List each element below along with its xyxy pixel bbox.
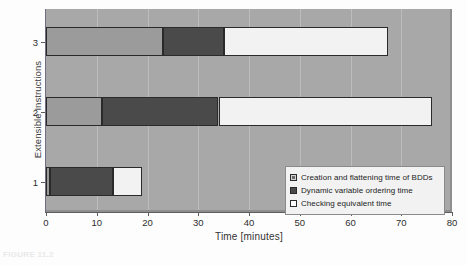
bar-segment-checking-equivalent [219,97,432,126]
chart-legend: Creation and flattening time of BDDs Dyn… [285,166,445,215]
y-tick-mark-1 [41,182,45,183]
stacked-bar-chart: Extensible Instructions [0,0,467,265]
legend-item-label: Creation and flattening time of BDDs [301,173,433,182]
y-tick-label-3: 3 [33,37,38,48]
x-tick-label-0: 0 [43,217,48,228]
x-tick-label-40: 40 [244,217,255,228]
bar-segment-dynamic-ordering [163,27,224,56]
x-tick-mark-10 [97,212,98,216]
dark-gray-swatch-icon [290,187,297,194]
plot-right-edge [450,9,452,212]
legend-item: Dynamic variable ordering time [290,184,440,196]
bar-segment-creation-flattening [46,97,102,126]
x-tick-label-10: 10 [91,217,102,228]
x-tick-label-80: 80 [447,217,458,228]
x-tick-label-20: 20 [142,217,153,228]
light-gray-hatched-swatch-icon [290,174,297,181]
y-axis-line [45,9,46,213]
x-tick-mark-80 [452,212,453,216]
x-tick-label-50: 50 [294,217,305,228]
x-tick-mark-20 [148,212,149,216]
x-axis-title: Time [minutes] [46,231,452,242]
legend-item: Checking equivalent time [290,197,440,209]
bar-segment-dynamic-ordering [50,167,113,196]
x-tick-mark-0 [46,212,47,216]
figure-caption: FIGURE 11.2 [3,250,54,259]
y-tick-mark-3 [41,42,45,43]
x-tick-label-70: 70 [396,217,407,228]
white-swatch-icon [290,200,297,207]
bar-segment-dynamic-ordering [102,97,219,126]
bar-segment-checking-equivalent [113,167,142,196]
x-tick-label-60: 60 [345,217,356,228]
x-tick-label-30: 30 [193,217,204,228]
y-tick-mark-2 [41,112,45,113]
x-tick-mark-30 [198,212,199,216]
x-tick-mark-40 [249,212,250,216]
y-tick-label-1: 1 [33,177,38,188]
legend-item-label: Checking equivalent time [301,199,392,208]
legend-item: Creation and flattening time of BDDs [290,171,440,183]
bar-segment-creation-flattening [46,27,163,56]
legend-item-label: Dynamic variable ordering time [301,186,413,195]
bar-segment-checking-equivalent [224,27,389,56]
y-tick-label-2: 2 [33,107,38,118]
